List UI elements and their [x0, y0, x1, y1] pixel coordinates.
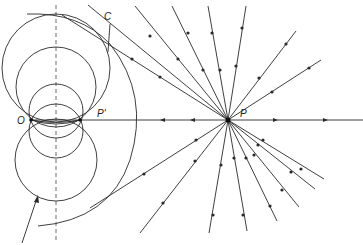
label-p-prime: P' [97, 108, 107, 119]
label-c: C [104, 11, 112, 22]
arrow-icon [273, 118, 278, 122]
label-o: O [17, 115, 25, 126]
arrow-icon [323, 118, 328, 122]
ray-circle-diagram: C O P' P [0, 0, 363, 245]
arrow-icon [190, 118, 195, 122]
point-p [226, 118, 231, 123]
pointer-arrow [22, 198, 37, 243]
c-marker-line [108, 24, 110, 52]
circle-medium [16, 47, 96, 127]
label-p: P [240, 108, 247, 119]
point-o [29, 118, 33, 122]
point-p-prime [78, 118, 82, 122]
arrow-icon [160, 118, 165, 122]
